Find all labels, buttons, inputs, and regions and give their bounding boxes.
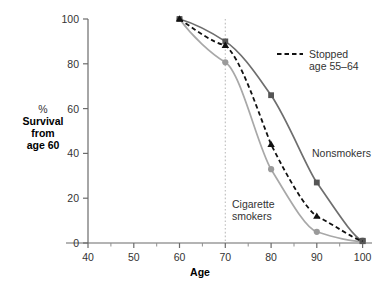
smokers-point-age-90	[314, 229, 320, 235]
stopped-point-age-80	[267, 141, 274, 147]
y-axis-title-line-3: from	[31, 127, 54, 139]
chart-canvas: 0 20 40 60 80 100 40 50 60 70 80	[0, 0, 387, 286]
series-label-smokers-line-2: smokers	[232, 210, 272, 222]
nonsmokers-point-age-80	[268, 92, 274, 98]
y-axis-title: % Survival from age 60	[23, 103, 64, 151]
nonsmokers-point-age-90	[314, 180, 320, 186]
y-tick-label-100: 100	[61, 13, 79, 25]
smokers-point-age-70	[222, 59, 228, 65]
x-tick-label-100: 100	[354, 251, 372, 263]
x-tick-label-70: 70	[219, 251, 231, 263]
series-label-smokers-line-1: Cigarette	[232, 198, 275, 210]
x-tick-label-60: 60	[174, 251, 186, 263]
y-tick-label-80: 80	[67, 58, 79, 70]
y-tick-label-0: 0	[73, 237, 79, 249]
smokers-point-age-80	[268, 166, 274, 172]
x-axis-ticks: 40 50 60 70 80 90 100	[82, 243, 371, 263]
x-tick-label-90: 90	[311, 251, 323, 263]
y-axis-ticks: 0 20 40 60 80 100	[61, 13, 88, 249]
x-tick-label-40: 40	[82, 251, 94, 263]
x-tick-label-50: 50	[128, 251, 140, 263]
x-axis-title: Age	[190, 266, 210, 278]
legend-stopped: Stopped age 55–64	[277, 48, 359, 72]
y-axis-title-line-4: age 60	[27, 139, 60, 151]
y-tick-label-20: 20	[67, 192, 79, 204]
series-label-nonsmokers: Nonsmokers	[312, 147, 371, 159]
survival-curve-chart: 0 20 40 60 80 100 40 50 60 70 80	[0, 0, 387, 286]
y-tick-label-40: 40	[67, 147, 79, 159]
y-axis-title-line-1: %	[38, 103, 47, 115]
y-tick-label-60: 60	[67, 103, 79, 115]
series-label-cigarette-smokers: Cigarette smokers	[232, 198, 275, 222]
x-tick-label-80: 80	[265, 251, 277, 263]
legend-stopped-label-line-2: age 55–64	[309, 60, 359, 72]
y-axis-title-line-2: Survival	[23, 115, 64, 127]
legend-stopped-label-line-1: Stopped	[309, 48, 348, 60]
